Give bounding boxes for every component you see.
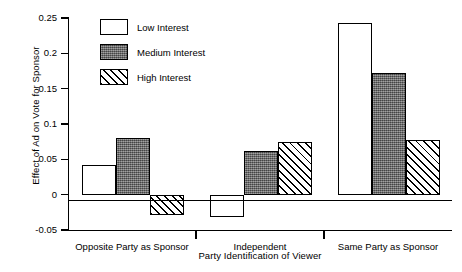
legend-swatch-icon bbox=[100, 44, 128, 60]
bar bbox=[372, 73, 406, 195]
x-axis-title: Party Identification of Viewer bbox=[60, 250, 460, 261]
legend-item: Low Interest bbox=[100, 16, 205, 38]
zero-reference-line bbox=[68, 200, 452, 201]
y-axis-tick-label: 0.05 bbox=[11, 154, 57, 164]
bar bbox=[210, 195, 244, 218]
bar bbox=[406, 140, 440, 194]
bar bbox=[338, 23, 372, 195]
x-axis-tick bbox=[323, 231, 324, 239]
y-axis-tick-label: -0.05 bbox=[11, 225, 57, 235]
legend-item: Medium Interest bbox=[100, 41, 205, 63]
bar-chart-figure: Effect of Ad on Vote for Sponsor 0.250.2… bbox=[0, 0, 462, 272]
chart-legend: Low InterestMedium InterestHigh Interest bbox=[100, 16, 205, 91]
y-axis-tick-label: 0.25 bbox=[11, 13, 57, 23]
bar bbox=[244, 151, 278, 195]
legend-swatch-icon bbox=[100, 69, 128, 85]
legend-item: High Interest bbox=[100, 66, 205, 88]
y-axis-tick-label: 0.1 bbox=[11, 119, 57, 129]
x-axis-tick bbox=[195, 231, 196, 239]
legend-swatch-icon bbox=[100, 19, 128, 35]
bar bbox=[278, 142, 312, 194]
bar bbox=[116, 138, 150, 195]
legend-label: Medium Interest bbox=[137, 47, 205, 58]
y-axis-tick-label: 0.2 bbox=[11, 48, 57, 58]
bar bbox=[82, 165, 116, 195]
y-axis-tick-label: 0 bbox=[11, 190, 57, 200]
y-axis-tick-label: 0.15 bbox=[11, 84, 57, 94]
x-axis-line bbox=[68, 230, 452, 231]
legend-label: Low Interest bbox=[137, 22, 189, 33]
bar bbox=[150, 195, 184, 215]
legend-label: High Interest bbox=[137, 72, 191, 83]
